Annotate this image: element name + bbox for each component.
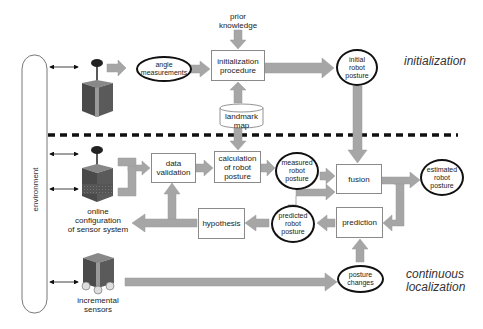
landmark-map-label: landmark map — [220, 112, 263, 130]
fusion-node: fusion — [336, 164, 382, 194]
initial-robot-posture-line1: initial — [345, 56, 368, 64]
measured-robot-posture-node: measured robot posture — [275, 152, 319, 190]
posture-changes-line1: posture — [347, 271, 373, 279]
initialization-procedure-line2: procedure — [217, 66, 258, 75]
initial-robot-posture-node: initial robot posture — [336, 49, 378, 86]
initial-robot-posture-line2: robot — [345, 64, 368, 72]
angle-measurements-line2: measurements — [141, 69, 187, 77]
environment-link-arrows — [50, 67, 78, 282]
estimated-robot-posture-line3: posture — [427, 182, 457, 190]
incremental-sensors-label: incremental sensors — [70, 296, 126, 314]
online-configuration-label: online configuration of sensor system — [62, 207, 134, 234]
continuous-localization-phase-label: continuous localization — [406, 268, 465, 294]
prediction-node: prediction — [336, 207, 383, 238]
online-config-line1: online — [62, 207, 134, 216]
initialization-procedure-node: initialization procedure — [211, 50, 265, 81]
continuous-line2: localization — [406, 281, 465, 294]
hypothesis-node: hypothesis — [198, 208, 245, 239]
calculation-line1: calculation — [219, 154, 257, 163]
angle-measurements-node: angle measurements — [136, 56, 192, 82]
online-sensor-robot-icon — [82, 146, 113, 202]
measured-robot-posture-line2: robot — [281, 167, 312, 175]
incremental-sensors-line1: incremental — [70, 296, 126, 305]
predicted-robot-posture-line1: predicted — [279, 212, 308, 220]
estimated-robot-posture-line1: estimated — [427, 166, 457, 174]
data-validation-line2: validation — [157, 168, 191, 177]
calculation-line2: of robot — [219, 163, 257, 172]
prior-knowledge-line2: knowledge — [210, 21, 266, 30]
landmark-map-line1: landmark — [220, 112, 263, 121]
prior-knowledge-line1: prior — [210, 12, 266, 21]
estimated-robot-posture-node: estimated robot posture — [420, 159, 464, 196]
predicted-robot-posture-node: predicted robot posture — [271, 205, 315, 243]
initial-robot-posture-line3: posture — [345, 72, 368, 80]
measured-robot-posture-line3: posture — [281, 175, 312, 183]
incremental-sensor-robot-icon — [82, 253, 114, 294]
online-config-line3: of sensor system — [62, 225, 134, 234]
landmark-map-line2: map — [220, 121, 263, 130]
calculation-of-robot-posture-node: calculation of robot posture — [214, 151, 261, 183]
calculation-line3: posture — [219, 172, 257, 181]
measured-robot-posture-line1: measured — [281, 159, 312, 167]
posture-changes-line2: changes — [347, 279, 373, 287]
initialization-phase-label: initialization — [404, 54, 466, 68]
incremental-sensors-line2: sensors — [70, 305, 126, 314]
estimated-robot-posture-line2: robot — [427, 174, 457, 182]
posture-changes-node: posture changes — [337, 265, 384, 293]
online-config-line2: configuration — [62, 216, 134, 225]
predicted-robot-posture-line2: robot — [279, 220, 308, 228]
environment-label: environment — [31, 160, 40, 220]
data-validation-line1: data — [157, 159, 191, 168]
prior-knowledge-label: prior knowledge — [210, 12, 266, 30]
initialization-procedure-line1: initialization — [217, 57, 258, 66]
predicted-robot-posture-line3: posture — [279, 228, 308, 236]
angle-measurements-line1: angle — [141, 61, 187, 69]
data-validation-node: data validation — [151, 153, 196, 183]
